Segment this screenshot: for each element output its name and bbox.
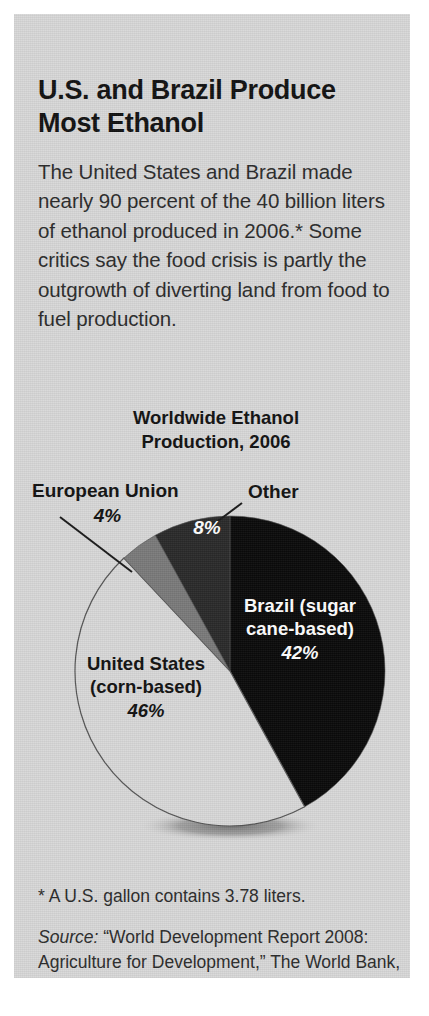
- slice-label-brazil: Brazil (sugar cane-based) 42%: [220, 594, 380, 664]
- source-label: Source:: [38, 927, 98, 947]
- slice-label-united-states: United States (corn-based) 46%: [56, 652, 236, 722]
- infographic-panel: U.S. and Brazil Produce Most Ethanol The…: [14, 14, 410, 978]
- slice-label-brazil-percent: 42%: [220, 641, 380, 664]
- slice-label-united-states-percent: 46%: [56, 699, 236, 722]
- summary-paragraph: The United States and Brazil made nearly…: [38, 157, 398, 334]
- slice-label-other: 8%: [172, 516, 242, 539]
- source-note: Source: “World Development Report 2008: …: [38, 925, 410, 979]
- chart-title-line-1: Worldwide Ethanol: [133, 407, 299, 428]
- callout-european-union: European Union 4%: [32, 480, 179, 527]
- callout-other-label: Other: [248, 481, 299, 502]
- pie-chart: European Union 4% Other 8% Brazil (sugar…: [14, 454, 410, 854]
- callout-other: Other: [248, 481, 299, 503]
- chart-title: Worldwide Ethanol Production, 2006: [38, 406, 394, 454]
- slice-label-brazil-line-1: Brazil (sugar: [244, 595, 356, 616]
- page-title: U.S. and Brazil Produce Most Ethanol: [38, 74, 388, 140]
- slice-label-united-states-line-1: United States: [87, 653, 205, 674]
- chart-title-line-2: Production, 2006: [141, 431, 290, 452]
- slice-label-other-percent: 8%: [193, 517, 220, 538]
- callout-european-union-percent: 4%: [32, 505, 179, 527]
- footnote: * A U.S. gallon contains 3.78 liters.: [38, 884, 404, 909]
- slice-label-brazil-line-2: cane-based): [246, 618, 354, 639]
- slice-label-united-states-line-2: (corn-based): [90, 676, 202, 697]
- callout-european-union-label: European Union: [32, 480, 179, 501]
